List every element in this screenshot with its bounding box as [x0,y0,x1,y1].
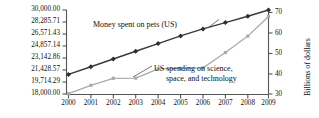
right-axis-title: Billions of dollars [303,38,312,96]
right-axis-tick-label-70: 70 [275,9,282,16]
left-axis-tick-label-18000: 18,000.00 [2,90,60,97]
left-axis-tick-label-24857: 24,857.14 [2,42,60,49]
left-axis-tick-label-19714: 19,714.29 [2,78,60,85]
x-axis-tick-label-2002: 2002 [101,100,126,107]
left-axis-tick-label-26571: 26,571.43 [2,30,60,37]
left-axis-tick-label-28285: 28,285.71 [2,18,60,25]
right-axis-tick-label-30: 30 [275,91,282,98]
x-axis-tick-label-2004: 2004 [146,100,171,107]
x-axis-tick-label-2001: 2001 [78,100,103,107]
series-annotation-science-line2: space, and technology [166,74,237,83]
x-axis-tick-label-2003: 2003 [123,100,148,107]
left-axis-ticks [63,10,67,94]
x-axis-tick-label-2005: 2005 [168,100,193,107]
right-axis-tick-label-50: 50 [275,50,282,57]
x-axis-tick-label-2007: 2007 [213,100,238,107]
left-axis-tick-label-21428: 21,428.57 [2,66,60,73]
series-annotation-science-line1: US spending on science, [154,64,233,73]
right-axis-tick-label-60: 60 [275,30,282,37]
x-axis-tick-label-2000: 2000 [56,100,81,107]
left-axis-tick-label-30000: 30,000.00 [2,6,60,13]
left-axis-tick-label-23142: 23,142.86 [2,54,60,61]
x-axis-ticks [69,95,269,99]
series-annotation-pets: Money spent on pets (US) [93,20,177,29]
dual-axis-line-chart: 30,000.00 28,285.71 26,571.43 24,857.14 … [0,0,319,118]
right-axis-tick-label-40: 40 [275,71,282,78]
right-axis-ticks [269,13,273,95]
x-axis-tick-label-2009: 2009 [256,100,281,107]
x-axis-tick-label-2006: 2006 [191,100,216,107]
